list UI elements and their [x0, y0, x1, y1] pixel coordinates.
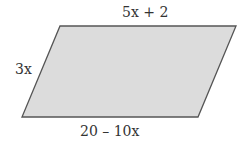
bottom-side-label: 20 – 10x	[80, 124, 139, 138]
parallelogram-shape	[22, 26, 236, 117]
top-side-label: 5x + 2	[122, 5, 168, 19]
left-side-label: 3x	[15, 62, 32, 76]
